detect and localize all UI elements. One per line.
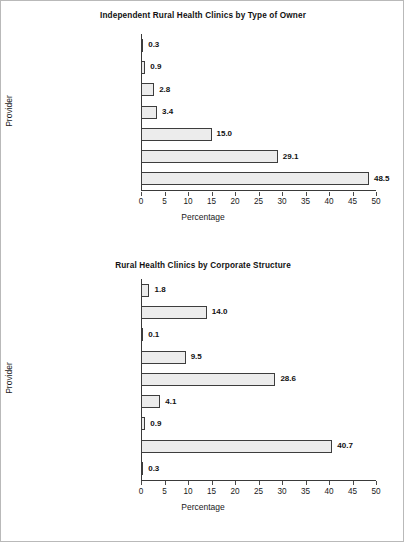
x-axis-tick-label: 25 — [248, 197, 270, 206]
x-axis-tick-label: 35 — [295, 197, 317, 206]
x-axis-tick-label: 5 — [154, 487, 176, 496]
x-axis-tick — [188, 481, 189, 485]
x-axis-tick — [212, 192, 213, 196]
bar — [141, 328, 143, 341]
bar-value-label: 0.1 — [148, 330, 159, 339]
bar-value-label: 29.1 — [283, 152, 299, 161]
x-axis-tick — [282, 481, 283, 485]
bar-value-label: 4.1 — [165, 397, 176, 406]
x-axis-tick-label: 35 — [295, 487, 317, 496]
bar — [141, 83, 154, 96]
x-axis-tick — [329, 192, 330, 196]
bar-value-label: 0.3 — [148, 464, 159, 473]
x-axis-tick-label: 20 — [224, 197, 246, 206]
x-axis-tick — [353, 192, 354, 196]
bar-value-label: 15.0 — [217, 129, 233, 138]
x-axis-tick-label: 30 — [271, 197, 293, 206]
bar — [141, 128, 212, 141]
bar-value-label: 2.8 — [159, 85, 170, 94]
chart-title-bottom: Rural Health Clinics by Corporate Struct… — [1, 261, 404, 270]
bar-value-label: 3.4 — [162, 107, 173, 116]
bar — [141, 172, 369, 185]
y-axis-title-top: Provider — [4, 85, 14, 137]
bar — [141, 61, 145, 74]
figure-frame: Independent Rural Health Clinics by Type… — [0, 0, 404, 542]
x-axis-tick — [329, 481, 330, 485]
x-axis-tick-label: 15 — [201, 197, 223, 206]
bar — [141, 373, 275, 386]
x-axis-title-bottom: Percentage — [1, 502, 404, 512]
x-axis-tick — [376, 481, 377, 485]
chart-title-top: Independent Rural Health Clinics by Type… — [1, 11, 404, 20]
bar-value-label: 40.7 — [337, 441, 353, 450]
x-axis-tick-label: 45 — [342, 197, 364, 206]
x-axis-tick-label: 45 — [342, 487, 364, 496]
x-axis-tick-label: 50 — [365, 197, 387, 206]
bar-value-label: 0.9 — [150, 62, 161, 71]
bar — [141, 284, 149, 297]
x-axis-tick — [141, 481, 142, 485]
bar-value-label: 9.5 — [191, 352, 202, 361]
x-axis-tick — [235, 481, 236, 485]
x-axis-tick-label: 5 — [154, 197, 176, 206]
x-axis-tick — [165, 192, 166, 196]
bar — [141, 150, 278, 163]
x-axis-tick-label: 30 — [271, 487, 293, 496]
x-axis-tick-label: 15 — [201, 487, 223, 496]
bar — [141, 417, 145, 430]
x-axis-tick — [306, 192, 307, 196]
bar — [141, 306, 207, 319]
bar-value-label: 28.6 — [280, 374, 296, 383]
x-axis-tick-label: 40 — [318, 487, 340, 496]
chart-rural-health-clinics-corporate-structure: Rural Health Clinics by Corporate Struct… — [1, 251, 404, 542]
bar — [141, 462, 143, 475]
x-axis-tick — [306, 481, 307, 485]
x-axis-tick — [188, 192, 189, 196]
x-axis-tick — [165, 481, 166, 485]
x-axis-tick — [141, 192, 142, 196]
x-axis-tick-label: 40 — [318, 197, 340, 206]
x-axis-tick-label: 50 — [365, 487, 387, 496]
bar-value-label: 14.0 — [212, 307, 228, 316]
x-axis-tick-label: 25 — [248, 487, 270, 496]
bar-value-label: 1.8 — [154, 285, 165, 294]
x-axis-tick — [282, 192, 283, 196]
x-axis-tick-label: 0 — [130, 197, 152, 206]
x-axis-tick — [259, 192, 260, 196]
x-axis-tick-label: 10 — [177, 197, 199, 206]
bar — [141, 106, 157, 119]
x-axis-tick — [376, 192, 377, 196]
bar-value-label: 0.9 — [150, 419, 161, 428]
bar — [141, 39, 143, 52]
x-axis-tick — [212, 481, 213, 485]
chart-independent-rural-health-clinics: Independent Rural Health Clinics by Type… — [1, 1, 404, 251]
x-axis-tick-label: 10 — [177, 487, 199, 496]
x-axis-tick — [353, 481, 354, 485]
x-axis-tick-label: 20 — [224, 487, 246, 496]
bar-value-label: 48.5 — [374, 174, 390, 183]
bar — [141, 395, 160, 408]
x-axis-tick — [235, 192, 236, 196]
bar — [141, 351, 186, 364]
x-axis-tick-label: 0 — [130, 487, 152, 496]
bar-value-label: 0.3 — [148, 40, 159, 49]
y-axis-title-bottom: Provider — [4, 352, 14, 404]
x-axis-title-top: Percentage — [1, 212, 404, 222]
bar — [141, 440, 332, 453]
x-axis-tick — [259, 481, 260, 485]
